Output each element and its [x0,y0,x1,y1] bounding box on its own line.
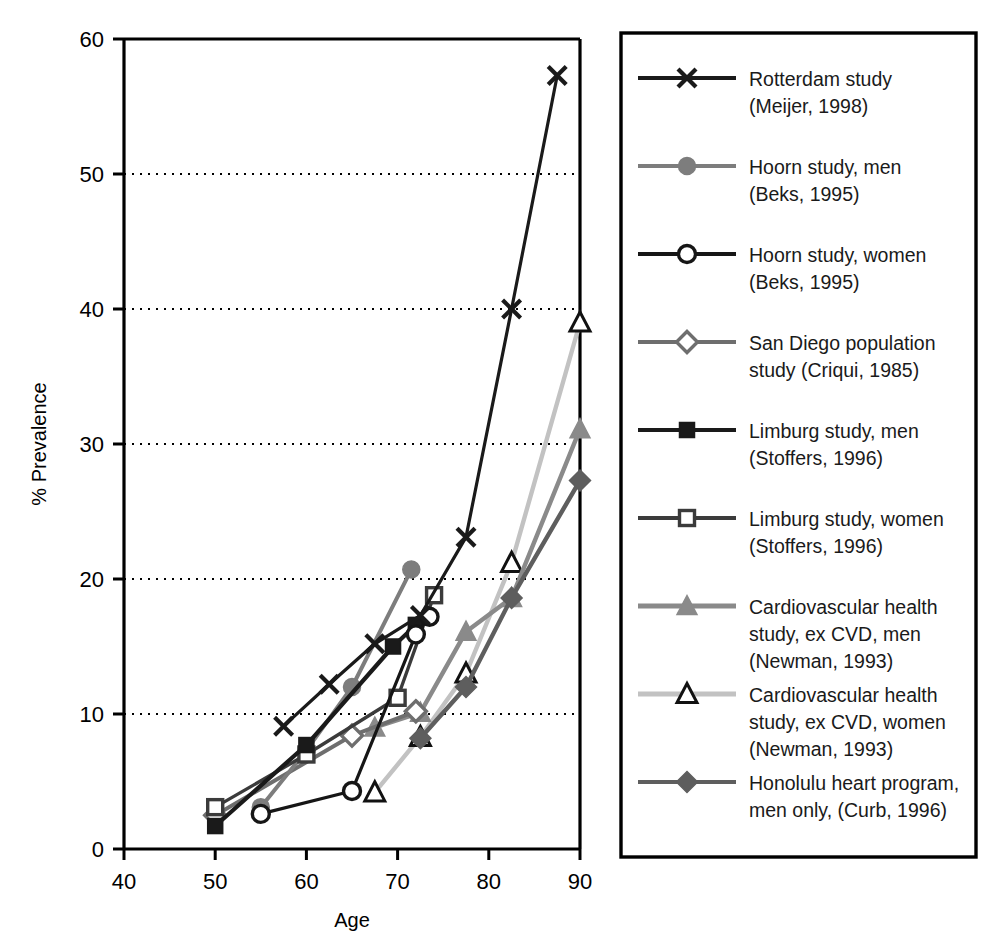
x-tick-label-50: 50 [203,869,227,894]
legend-label-line2-7: study, ex CVD, women [749,711,946,733]
legend-label-line1-6: Cardiovascular health [749,596,938,618]
chart-page: 0102030405060405060708090Age% Prevalence… [0,0,981,937]
series-6 [365,419,590,736]
legend-marker-1 [679,158,696,175]
series-5-marker-0 [208,800,223,815]
legend: Rotterdam study(Meijer, 1998)Hoorn study… [621,33,976,857]
series-6-marker-4 [570,419,590,438]
legend-label-line2-4: (Stoffers, 1996) [749,447,883,469]
legend-marker-4 [680,423,695,438]
legend-label-line1-8: Honolulu heart program, [749,772,959,794]
legend-label-line1-2: Hoorn study, women [749,244,926,266]
legend-label-line3-7: (Newman, 1993) [749,738,893,760]
x-tick-label-60: 60 [294,869,318,894]
series-7-marker-4 [570,312,590,331]
legend-label-line2-3: study (Criqui, 1985) [749,359,919,381]
legend-label-line1-7: Cardiovascular health [749,684,938,706]
series-2-marker-1 [344,782,361,799]
legend-label-line2-8: men only, (Curb, 1996) [749,799,947,821]
x-tick-label-40: 40 [112,869,136,894]
prevalence-line-chart: 0102030405060405060708090Age% Prevalence… [0,0,981,937]
y-axis: 0102030405060 [80,27,124,862]
series-4-marker-0 [208,819,223,834]
y-tick-label-0: 0 [92,837,104,862]
x-tick-label-70: 70 [385,869,409,894]
legend-label-line2-0: (Meijer, 1998) [749,95,868,117]
legend-label-line1-3: San Diego population [749,332,935,354]
y-axis-title: % Prevalence [28,382,50,505]
series-8 [410,470,591,749]
legend-label-line2-2: (Beks, 1995) [749,271,860,293]
series-4-marker-1 [299,738,314,753]
y-tick-label-30: 30 [80,432,104,457]
series-5 [208,588,442,815]
legend-label-line1-1: Hoorn study, men [749,156,901,178]
series-2-marker-0 [252,805,269,822]
series-2-marker-2 [407,626,424,643]
series-8-marker-3 [570,470,591,491]
x-axis: 405060708090 [112,849,592,894]
series-line-7 [375,323,580,793]
legend-label-line2-1: (Beks, 1995) [749,183,860,205]
legend-label-line1-0: Rotterdam study [749,68,892,90]
y-tick-label-60: 60 [80,27,104,52]
legend-label-line2-6: study, ex CVD, men [749,623,921,645]
series-7 [365,312,590,801]
y-tick-label-50: 50 [80,162,104,187]
series-line-8 [420,480,580,738]
y-tick-label-20: 20 [80,567,104,592]
legend-marker-2 [679,246,696,263]
legend-label-line2-5: (Stoffers, 1996) [749,535,883,557]
series-3-marker-1 [342,725,363,746]
series-4-marker-2 [386,639,401,654]
legend-label-line1-5: Limburg study, women [749,508,944,530]
series-0-marker-1 [320,675,338,693]
x-tick-label-90: 90 [568,869,592,894]
series-1-marker-3 [403,561,420,578]
legend-label-line1-4: Limburg study, men [749,420,919,442]
y-tick-label-10: 10 [80,702,104,727]
series-0-marker-0 [275,717,293,735]
x-tick-label-80: 80 [477,869,501,894]
series-group [205,66,591,833]
gridlines [124,174,580,714]
series-7-marker-3 [502,552,522,571]
y-tick-label-40: 40 [80,297,104,322]
x-axis-title: Age [334,909,370,931]
legend-label-line3-6: (Newman, 1993) [749,650,893,672]
legend-marker-5 [680,511,695,526]
